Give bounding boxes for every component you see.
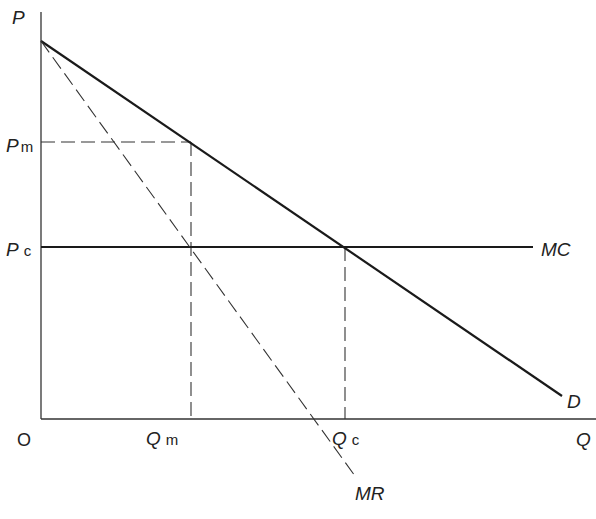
demand-label: D xyxy=(567,391,581,412)
qc-label: Qc xyxy=(332,428,360,449)
pm-label: Pm xyxy=(6,135,33,156)
y-axis-label: P xyxy=(12,7,25,28)
diagram-canvas: P O Q Pm Pc Qm Qc MC D MR xyxy=(0,0,596,519)
demand-curve xyxy=(41,41,562,396)
pc-label: Pc xyxy=(6,239,32,260)
mc-label: MC xyxy=(541,239,571,260)
x-axis-label: Q xyxy=(576,429,591,450)
mr-curve xyxy=(41,41,355,476)
qm-label: Qm xyxy=(146,428,178,449)
mr-label: MR xyxy=(355,483,385,504)
origin-label: O xyxy=(17,430,31,450)
